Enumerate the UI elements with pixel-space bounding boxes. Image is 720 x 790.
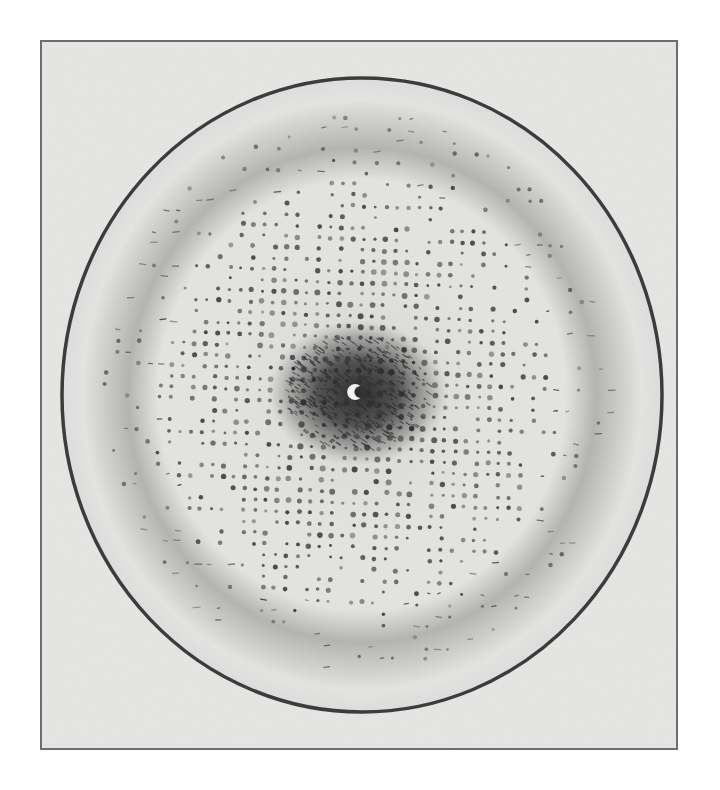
diffraction-figure: [0, 0, 720, 790]
diffraction-photograph: [0, 0, 720, 790]
film-grain: [41, 41, 677, 749]
